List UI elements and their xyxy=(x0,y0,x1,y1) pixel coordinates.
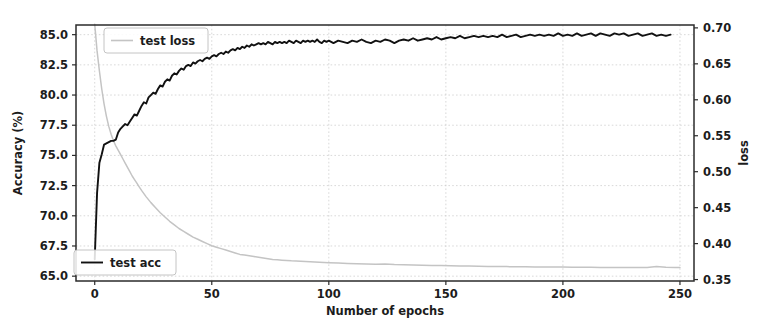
x-tick-label: 50 xyxy=(204,287,220,301)
y-left-tick-label: 70.0 xyxy=(40,209,68,223)
y-right-tick-label: 0.35 xyxy=(703,273,731,287)
y-right-tick-label: 0.40 xyxy=(703,237,731,251)
x-tick-label: 0 xyxy=(91,287,99,301)
legend-test-acc-label: test acc xyxy=(110,256,161,270)
y-right-tick-label: 0.55 xyxy=(703,129,731,143)
y-left-tick-label: 77.5 xyxy=(40,118,68,132)
x-axis-title: Number of epochs xyxy=(326,304,444,318)
y-right-tick-label: 0.70 xyxy=(703,21,731,35)
y-left-tick-label: 72.5 xyxy=(40,179,68,193)
y-right-tick-label: 0.45 xyxy=(703,201,731,215)
y-left-tick-label: 82.5 xyxy=(40,58,68,72)
x-tick-label: 250 xyxy=(668,287,692,301)
chart-figure: 65.067.570.072.575.077.580.082.585.0 0.3… xyxy=(0,0,770,332)
legend-test-acc: test acc xyxy=(74,250,176,275)
y-axis-right-title: loss xyxy=(737,140,751,166)
y-left-tick-label: 75.0 xyxy=(40,148,68,162)
y-left-tick-label: 65.0 xyxy=(40,269,68,283)
y-right-tick-label: 0.60 xyxy=(703,93,731,107)
y-left-tick-label: 80.0 xyxy=(40,88,68,102)
x-tick-label: 200 xyxy=(551,287,575,301)
y-axis-left-title: Accuracy (%) xyxy=(11,111,25,196)
accuracy-loss-line-chart: 65.067.570.072.575.077.580.082.585.0 0.3… xyxy=(0,0,770,332)
legend-test-loss-label: test loss xyxy=(140,34,195,48)
legend-test-loss: test loss xyxy=(104,28,208,53)
y-left-tick-label: 67.5 xyxy=(40,239,68,253)
y-right-tick-label: 0.65 xyxy=(703,57,731,71)
x-tick-label: 150 xyxy=(434,287,458,301)
x-tick-label: 100 xyxy=(317,287,341,301)
y-right-tick-label: 0.50 xyxy=(703,165,731,179)
y-left-tick-label: 85.0 xyxy=(40,28,68,42)
